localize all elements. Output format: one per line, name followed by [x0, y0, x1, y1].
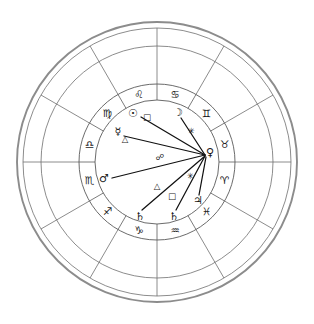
zodiac-divider-virgo [118, 94, 126, 108]
planet-venus: ♀ [206, 146, 214, 159]
astrology-chart: ♋♌♍♎♏♐♑♒♓♈♉♊ □△✳☍✳△□ ☉☽☿♀♂♃♄♄ [0, 0, 314, 324]
house-cusp-120 [90, 46, 118, 94]
planet-jupiter: ♃ [193, 194, 203, 207]
house-wheel-layer [23, 28, 291, 296]
zodiac-divider-gemini [211, 123, 225, 131]
planet-mercury: ☿ [115, 125, 122, 138]
chart-canvas: ♋♌♍♎♏♐♑♒♓♈♉♊ □△✳☍✳△□ ☉☽☿♀♂♃♄♄ [0, 0, 314, 324]
aspect-square-sun-venus: □ [143, 112, 151, 122]
zodiac-divider-aries [211, 193, 225, 201]
house-cusp-300 [196, 230, 224, 278]
zodiac-sign-gemini: ♊ [202, 107, 211, 119]
house-cusp-210 [41, 201, 89, 229]
zodiac-sign-taurus: ♉ [220, 138, 229, 150]
zodiac-sign-pisces: ♓ [202, 205, 211, 217]
planet-saturn-2: ♄ [169, 210, 179, 223]
aspect-markers-layer: □△✳☍✳△□ [122, 112, 195, 201]
planet-sun: ☉ [128, 107, 138, 120]
planets-layer: ☉☽☿♀♂♃♄♄ [99, 106, 214, 223]
zodiac-divider-capricorn [118, 216, 126, 230]
planet-saturn-1: ♄ [135, 210, 145, 223]
zodiac-divider-sagittarius [89, 193, 103, 201]
line-mercury-venus [124, 136, 205, 155]
zodiac-sign-libra: ♎ [85, 138, 94, 150]
house-cusp-330 [225, 201, 273, 229]
zodiac-divider-pisces [188, 216, 196, 230]
aspect-square-saturn-venus: □ [168, 191, 176, 201]
planet-moon: ☽ [173, 106, 183, 119]
line-jupiter-venus [199, 157, 206, 195]
house-cusp-30 [225, 95, 273, 123]
zodiac-sign-cancer: ♋ [170, 88, 179, 100]
line-sun-venus [141, 117, 205, 155]
aspect-sextile-lower: ✳ [186, 171, 193, 181]
zodiac-sign-leo: ♌ [134, 88, 143, 100]
zodiac-sign-capricorn: ♑ [134, 224, 143, 236]
aspect-opposition-mars-venus: ☍ [156, 152, 165, 162]
aspect-trine-mercury-venus: △ [122, 134, 129, 144]
aspect-sextile-upper: ✳ [187, 126, 194, 136]
zodiac-divider-libra [89, 123, 103, 131]
zodiac-ring-layer: ♋♌♍♎♏♐♑♒♓♈♉♊ [79, 84, 235, 240]
house-cusp-240 [90, 230, 118, 278]
zodiac-sign-aquarius: ♒ [170, 224, 179, 236]
zodiac-sign-virgo: ♍ [103, 107, 112, 119]
aspect-trine-saturn-venus: △ [154, 181, 161, 191]
zodiac-divider-cancer [188, 94, 196, 108]
line-moon-venus [181, 118, 205, 155]
zodiac-sign-aries: ♈ [220, 174, 229, 186]
zodiac-sign-scorpio: ♏ [85, 174, 95, 186]
house-cusp-60 [196, 46, 224, 94]
planet-mars: ♂ [99, 172, 109, 185]
house-cusp-150 [41, 95, 89, 123]
zodiac-sign-sagittarius: ♐ [103, 205, 112, 217]
